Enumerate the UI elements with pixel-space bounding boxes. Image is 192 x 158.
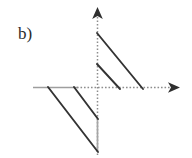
curve-upper-branch-long (97, 33, 143, 89)
x-axis-arrowhead-icon (168, 82, 180, 93)
curve-lower-branch-short (74, 87, 98, 119)
curve-upper-branch-short (97, 64, 120, 89)
panel-label: b) (18, 24, 32, 43)
curve-lower-branch-long (48, 87, 98, 152)
figure-panel: b) (0, 0, 192, 158)
